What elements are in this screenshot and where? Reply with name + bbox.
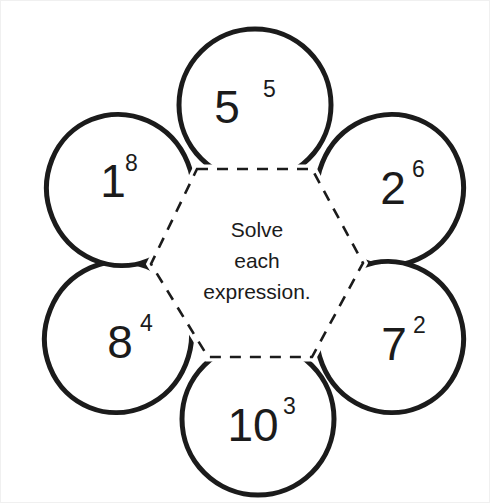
petal-top[interactable]: 5 5 <box>179 29 331 181</box>
petal-upper-left-exponent: 8 <box>125 150 138 176</box>
petal-top-exponent: 5 <box>263 76 276 102</box>
petal-bottom[interactable]: 10 3 <box>182 343 334 495</box>
center-instruction-line-3: expression. <box>203 280 310 303</box>
petal-lower-left-base: 8 <box>107 316 133 368</box>
petal-top-base: 5 <box>214 81 240 133</box>
petal-top-shape[interactable] <box>179 29 331 181</box>
center-instruction-line-1: Solve <box>231 218 284 241</box>
petal-bottom-exponent: 3 <box>283 393 296 419</box>
exponent-flower-diagram: 5 5 2 6 7 2 10 3 <box>1 1 490 503</box>
petal-lower-right-exponent: 2 <box>413 312 426 338</box>
petal-upper-right-exponent: 6 <box>412 156 425 182</box>
petal-lower-left-exponent: 4 <box>140 310 153 336</box>
petal-bottom-base: 10 <box>227 399 278 451</box>
petal-upper-left-base: 1 <box>100 155 126 207</box>
center-instruction-line-2: each <box>234 249 280 272</box>
petal-lower-right-base: 7 <box>381 318 407 370</box>
worksheet-page: 5 5 2 6 7 2 10 3 <box>0 0 490 503</box>
petal-upper-right-base: 2 <box>380 162 406 214</box>
